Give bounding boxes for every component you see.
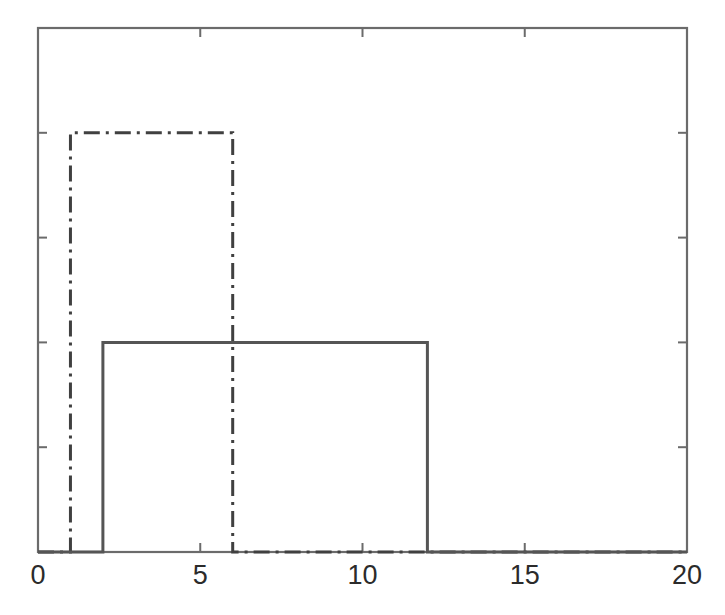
x-tick-label: 20 <box>672 562 702 589</box>
chart-figure: 05101520 <box>0 0 725 615</box>
x-tick-label: 15 <box>510 562 540 589</box>
figure-background <box>0 0 725 615</box>
x-tick-label: 10 <box>347 562 377 589</box>
plot-canvas <box>0 0 725 615</box>
x-tick-label: 0 <box>30 562 45 589</box>
x-tick-label: 5 <box>193 562 208 589</box>
